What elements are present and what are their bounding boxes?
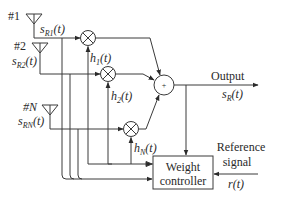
antenna-1-label: #1 xyxy=(8,9,20,23)
controller-label-line1: Weight xyxy=(166,160,201,174)
weight-hN-label: hN(t) xyxy=(134,141,157,157)
reference-signal-label: r(t) xyxy=(228,177,244,191)
weight-h2-label: h2(t) xyxy=(111,89,132,105)
controller-label-line2: controller xyxy=(160,174,207,188)
summer-symbol: + xyxy=(162,81,167,90)
reference-label-line2: signal xyxy=(223,155,252,169)
output-label: Output xyxy=(211,69,245,83)
signal-s1-label: sR1(t) xyxy=(40,22,65,38)
multiplier-1-icon xyxy=(81,31,96,46)
output-signal-label: sR(t) xyxy=(222,87,243,103)
antenna-2-label: #2 xyxy=(14,39,26,53)
multiplier-2-icon xyxy=(101,67,116,82)
reference-label-line1: Reference xyxy=(217,140,266,154)
multiplier-n-icon xyxy=(124,122,139,137)
antenna-n-icon xyxy=(42,105,58,129)
signal-s2-label: sR2(t) xyxy=(12,54,37,70)
signal-sN-label: sRN(t) xyxy=(18,114,44,130)
adaptive-array-diagram: #1 #2 #N sR1(t) sR2(t) sRN(t) h1(t) h2(t… xyxy=(0,0,281,201)
weight-h1-label: h1(t) xyxy=(90,51,111,67)
antenna-n-label: #N xyxy=(23,100,38,114)
